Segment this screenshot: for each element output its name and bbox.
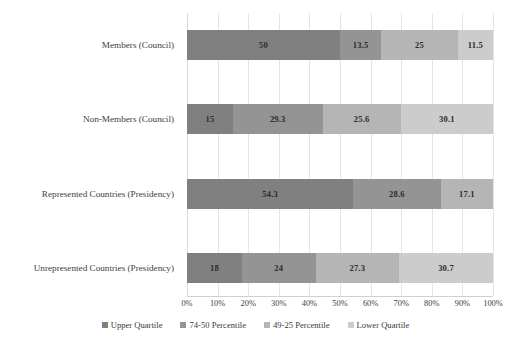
gridline-100: [493, 13, 494, 296]
legend-swatch-icon: [348, 322, 354, 328]
bar-row: 54.328.617.1: [187, 179, 493, 209]
legend-label: 49-25 Percentile: [273, 320, 330, 330]
stacked-bar-chart: Members (Council) Non-Members (Council) …: [0, 0, 511, 354]
legend-label: 74-50 Percentile: [189, 320, 246, 330]
bar-segment: 25.6: [323, 104, 401, 134]
category-label-non-members-council: Non-Members (Council): [0, 104, 174, 134]
x-axis-ticks: 0%10%20%30%40%50%60%70%80%90%100%: [187, 299, 493, 313]
x-tick-label: 40%: [302, 299, 317, 308]
category-label-unrepresented-countries-presidency: Unrepresented Countries (Presidency): [0, 253, 174, 283]
legend-item[interactable]: 74-50 Percentile: [180, 320, 246, 330]
x-tick-label: 30%: [271, 299, 286, 308]
bar-segment: 11.5: [458, 30, 493, 60]
plot-area: 5013.52511.51529.325.630.154.328.617.118…: [187, 13, 493, 296]
x-tick-label: 70%: [394, 299, 409, 308]
bar-segment: 30.1: [401, 104, 493, 134]
category-axis: Members (Council) Non-Members (Council) …: [0, 13, 180, 296]
bar-segment: 15: [187, 104, 233, 134]
bar-segment: 18: [187, 253, 242, 283]
bar-segment: 13.5: [340, 30, 381, 60]
legend-swatch-icon: [180, 322, 186, 328]
legend-item[interactable]: 49-25 Percentile: [264, 320, 330, 330]
bar-segment: 27.3: [316, 253, 400, 283]
legend-label: Lower Quartile: [357, 320, 410, 330]
bar-rows: 5013.52511.51529.325.630.154.328.617.118…: [187, 13, 493, 296]
category-label-members-council: Members (Council): [0, 30, 174, 60]
bar-segment: 17.1: [441, 179, 493, 209]
x-tick-label: 20%: [241, 299, 256, 308]
x-tick-label: 50%: [332, 299, 347, 308]
x-tick-label: 100%: [483, 299, 503, 308]
legend-label: Upper Quartile: [111, 320, 163, 330]
x-tick-label: 10%: [210, 299, 225, 308]
chart-legend: Upper Quartile74-50 Percentile49-25 Perc…: [0, 320, 511, 330]
bar-segment: 29.3: [233, 104, 323, 134]
legend-swatch-icon: [102, 322, 108, 328]
bar-row: 1529.325.630.1: [187, 104, 493, 134]
x-axis-line: [187, 296, 493, 297]
category-label-represented-countries-presidency: Represented Countries (Presidency): [0, 179, 174, 209]
bar-segment: 24: [242, 253, 315, 283]
legend-item[interactable]: Upper Quartile: [102, 320, 163, 330]
bar-row: 182427.330.7: [187, 253, 493, 283]
bar-segment: 54.3: [187, 179, 353, 209]
x-tick-label: 0%: [181, 299, 192, 308]
legend-item[interactable]: Lower Quartile: [348, 320, 410, 330]
bar-segment: 50: [187, 30, 340, 60]
bar-segment: 30.7: [399, 253, 493, 283]
bar-row: 5013.52511.5: [187, 30, 493, 60]
x-tick-label: 60%: [363, 299, 378, 308]
x-tick-label: 90%: [455, 299, 470, 308]
legend-swatch-icon: [264, 322, 270, 328]
bar-segment: 25: [381, 30, 458, 60]
bar-segment: 28.6: [353, 179, 441, 209]
x-tick-label: 80%: [424, 299, 439, 308]
